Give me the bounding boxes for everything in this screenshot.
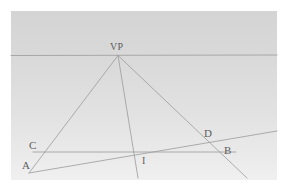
horizon-line [11,55,277,56]
vp-to-b-ray [118,56,247,179]
label-point-i: I [142,156,145,166]
vp-to-a-ray [29,56,118,174]
vp-to-i-ray [118,56,138,179]
label-point-b: B [224,145,231,156]
label-point-d: D [204,128,212,139]
label-point-c: C [29,140,36,151]
diagram-page: VP C A I D B [0,0,288,192]
label-point-a: A [22,160,30,171]
label-vanishing-point: VP [110,42,123,52]
